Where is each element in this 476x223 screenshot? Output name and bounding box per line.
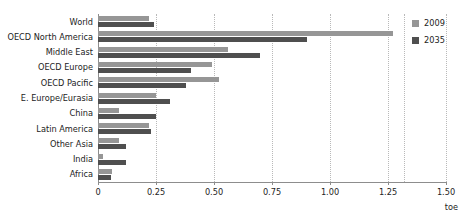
x-tick-label-0: 0	[95, 187, 100, 197]
bar-2009-oecd-europe	[98, 62, 212, 67]
x-tick-mark-0.50	[214, 182, 215, 185]
x-tick-mark-0.25	[156, 182, 157, 185]
x-tick-label-0.25: 0.25	[147, 187, 165, 197]
category-label-africa: Africa	[0, 169, 93, 179]
x-tick-mark-1.00	[330, 182, 331, 185]
x-tick-mark-0.75	[272, 182, 273, 185]
category-axis-labels: WorldOECD North AmericaMiddle EastOECD E…	[0, 14, 93, 182]
x-tick-label-0.50: 0.50	[205, 187, 223, 197]
bar-2009-africa	[98, 169, 112, 174]
category-label-china: China	[0, 108, 93, 118]
gridline-1.00	[330, 14, 331, 182]
gridline-1.25	[388, 14, 389, 182]
bar-2035-oecd-north-america	[98, 37, 307, 42]
bar-chart: WorldOECD North AmericaMiddle EastOECD E…	[0, 0, 476, 223]
bar-2035-oecd-europe	[98, 68, 191, 73]
bar-2035-e-europe-eurasia	[98, 99, 170, 104]
category-label-other-asia: Other Asia	[0, 139, 93, 149]
bar-2009-middle-east	[98, 47, 228, 52]
bar-2009-china	[98, 108, 119, 113]
category-label-oecd-europe: OECD Europe	[0, 62, 93, 72]
bar-2035-china	[98, 114, 156, 119]
bar-2035-other-asia	[98, 144, 126, 149]
plot-area	[98, 14, 446, 182]
bar-2009-india	[98, 154, 103, 159]
category-label-india: India	[0, 154, 93, 164]
bar-2009-oecd-pacific	[98, 77, 219, 82]
bar-2035-world	[98, 22, 154, 27]
bar-2009-other-asia	[98, 138, 119, 143]
x-tick-label-1.50: 1.50	[437, 187, 455, 197]
axis-unit-label: toe	[445, 202, 458, 212]
legend-swatch-icon-2009	[412, 20, 419, 27]
bar-2035-middle-east	[98, 53, 260, 58]
category-label-oecd-pacific: OECD Pacific	[0, 78, 93, 88]
bar-2035-india	[98, 160, 126, 165]
legend-label-2035: 2035	[424, 35, 445, 45]
legend-swatch-icon-2035	[412, 37, 419, 44]
legend-separator	[404, 14, 405, 182]
category-label-latin-america: Latin America	[0, 124, 93, 134]
legend-item-2035[interactable]: 2035	[412, 33, 474, 47]
bar-2035-latin-america	[98, 129, 151, 134]
category-label-world: World	[0, 17, 93, 27]
x-tick-mark-0	[98, 182, 99, 185]
chart-legend: 20092035	[412, 16, 474, 50]
bar-2009-latin-america	[98, 123, 149, 128]
bar-2035-africa	[98, 175, 111, 180]
bar-2035-oecd-pacific	[98, 83, 186, 88]
bar-2009-world	[98, 16, 149, 21]
bar-2009-oecd-north-america	[98, 31, 393, 36]
legend-item-2009[interactable]: 2009	[412, 16, 474, 30]
category-label-e-europe-eurasia: E. Europe/Eurasia	[0, 93, 93, 103]
x-tick-label-1.25: 1.25	[379, 187, 397, 197]
x-tick-label-1.00: 1.00	[321, 187, 339, 197]
x-tick-mark-1.50	[446, 182, 447, 185]
legend-label-2009: 2009	[424, 18, 445, 28]
category-label-middle-east: Middle East	[0, 47, 93, 57]
x-tick-mark-1.25	[388, 182, 389, 185]
category-label-oecd-north-america: OECD North America	[0, 32, 93, 42]
bar-2009-e-europe-eurasia	[98, 93, 156, 98]
x-tick-label-0.75: 0.75	[263, 187, 281, 197]
